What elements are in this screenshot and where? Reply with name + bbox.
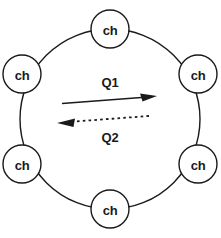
flow-q2: Q2 (57, 116, 149, 145)
q1-label: Q1 (102, 75, 119, 90)
node-bottom-label: ch (103, 203, 118, 218)
node-left-lower[interactable]: ch (3, 145, 41, 183)
node-top-label: ch (103, 23, 118, 38)
node-bottom[interactable]: ch (91, 190, 129, 228)
node-right-upper[interactable]: ch (179, 55, 217, 93)
flow-q1: Q1 (62, 75, 157, 104)
node-left-upper[interactable]: ch (3, 55, 41, 93)
ring-diagram: Q1 Q2 ch ch ch ch ch (0, 0, 221, 238)
ring-circle (20, 29, 200, 209)
q2-arrow-head (57, 119, 75, 128)
q1-arrow-shaft (62, 97, 148, 104)
ring-diagram-canvas: Q1 Q2 ch ch ch ch ch (0, 0, 221, 238)
node-right-lower-label: ch (191, 158, 206, 173)
node-left-lower-label: ch (15, 158, 30, 173)
node-top[interactable]: ch (91, 10, 129, 48)
node-right-lower[interactable]: ch (179, 145, 217, 183)
node-left-upper-label: ch (15, 68, 30, 83)
q2-arrow-shaft (68, 116, 149, 122)
node-right-upper-label: ch (191, 68, 206, 83)
q2-label: Q2 (102, 130, 119, 145)
q1-arrow-head (140, 94, 157, 102)
